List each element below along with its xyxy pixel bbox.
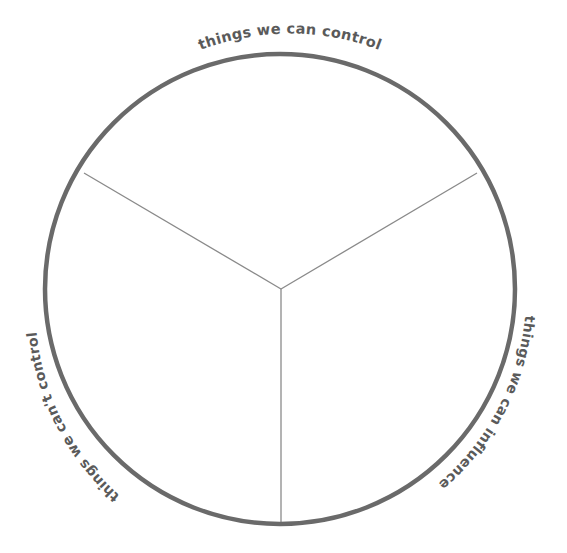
spoke-left xyxy=(84,173,281,289)
label-things-we-can-control: things we can control xyxy=(196,21,384,53)
spoke-right xyxy=(281,173,477,289)
circle-of-control-diagram: things we can control things we can infl… xyxy=(0,0,567,553)
label-things-we-cant-control: things we can't control xyxy=(24,331,122,505)
